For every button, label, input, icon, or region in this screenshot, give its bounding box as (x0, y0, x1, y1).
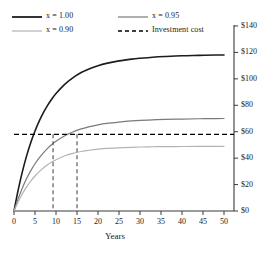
x-axis-title: Years (105, 231, 125, 241)
series-line-0 (14, 55, 224, 211)
y-axis-tick-label: $20 (241, 180, 253, 189)
y-axis-tick-label: $40 (241, 153, 253, 162)
legend-item-x-0-95: x = 0.95 (152, 11, 179, 20)
x-axis-tick-label: 10 (52, 217, 60, 226)
x-axis-tick-label: 5 (33, 217, 37, 226)
y-axis-tick-label: $100 (241, 74, 257, 83)
y-axis-tick-label: $60 (241, 127, 253, 136)
series-line-2 (14, 146, 224, 211)
legend-item-x-1-00: x = 1.00 (46, 11, 73, 20)
x-axis-tick-label: 20 (94, 217, 102, 226)
y-axis-tick-label: $140 (241, 21, 257, 30)
x-axis-tick-label: 25 (115, 217, 123, 226)
x-axis-tick-label: 50 (220, 217, 228, 226)
x-axis-tick-label: 15 (73, 217, 81, 226)
series-line-1 (14, 119, 224, 212)
x-axis-tick-label: 0 (12, 217, 16, 226)
y-axis-tick-label: $0 (241, 206, 249, 215)
chart-figure: x = 1.00 x = 0.95 x = 0.90 Investment co… (0, 0, 270, 254)
x-axis-tick-label: 30 (136, 217, 144, 226)
chart-plot-area (0, 0, 270, 254)
x-axis-tick-label: 45 (199, 217, 207, 226)
y-axis-tick-label: $120 (241, 47, 257, 56)
x-axis-tick-label: 40 (178, 217, 186, 226)
axes-group (14, 25, 238, 215)
legend-item-x-0-90: x = 0.90 (46, 25, 73, 34)
x-axis-tick-label: 35 (157, 217, 165, 226)
payback-marker-group (53, 134, 77, 211)
legend-swatch-group (12, 17, 148, 31)
legend-item-investment-cost: Investment cost (152, 25, 204, 34)
y-axis-tick-label: $80 (241, 100, 253, 109)
series-lines-group (14, 55, 224, 211)
